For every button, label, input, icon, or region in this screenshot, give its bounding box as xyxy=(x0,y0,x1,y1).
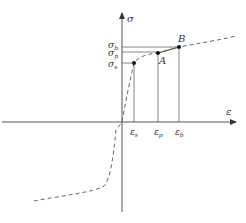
point-b xyxy=(177,45,181,49)
x-axis-label: ε xyxy=(226,106,231,117)
label-eps-p: εp xyxy=(154,127,163,139)
label-eps-s: εs xyxy=(130,127,138,138)
stress-strain-diagram: σ ε σb σp σs εs εp εb A B xyxy=(0,0,246,223)
label-point-b: B xyxy=(177,33,185,44)
stress-strain-curve xyxy=(34,36,236,201)
point-sigma-s xyxy=(132,61,136,65)
label-point-a: A xyxy=(158,55,166,66)
y-axis-label: σ xyxy=(127,13,135,24)
label-sigma-s: σs xyxy=(108,59,117,70)
label-eps-b: εb xyxy=(175,127,184,138)
